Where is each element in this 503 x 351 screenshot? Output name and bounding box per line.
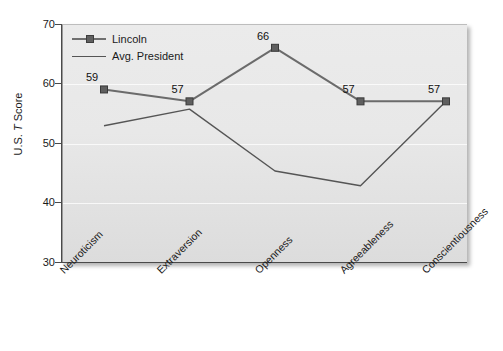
legend-line-icon — [72, 56, 106, 57]
y-tick-mark-70 — [55, 24, 61, 25]
y-tick-mark-40 — [55, 202, 61, 203]
y-axis-title-suffix: Score — [12, 93, 24, 125]
legend-square-marker-icon — [86, 35, 94, 43]
y-tick-label-40-wrap: 40 — [16, 197, 55, 208]
legend-item-avg-president: Avg. President — [72, 47, 222, 64]
legend-label-avg-president: Avg. President — [112, 50, 183, 62]
y-tick-label-60: 60 — [23, 78, 55, 89]
y-tick-mark-60 — [55, 83, 61, 84]
data-point-label: 57 — [428, 84, 440, 95]
data-point-label: 57 — [171, 84, 183, 95]
data-point-label: 59 — [86, 72, 98, 83]
y-tick-label-70: 70 — [23, 19, 55, 30]
y-tick-label-30: 30 — [23, 257, 55, 268]
legend-key-avg-president — [72, 50, 106, 62]
gridline-60 — [63, 84, 467, 85]
y-tick-label-40: 40 — [23, 197, 55, 208]
y-tick-mark-50 — [55, 143, 61, 144]
gridline-50 — [63, 144, 467, 145]
y-axis-title-prefix: U.S. — [12, 131, 24, 155]
legend-key-lincoln — [72, 33, 106, 45]
gridline-40 — [63, 203, 467, 204]
data-point-label: 57 — [342, 84, 354, 95]
legend-item-lincoln: Lincoln — [72, 30, 222, 47]
data-point-label: 66 — [257, 31, 269, 42]
y-axis-title: U.S. T Score — [12, 69, 24, 179]
y-axis-title-italic: T — [12, 124, 24, 131]
chart-legend: Lincoln Avg. President — [72, 30, 222, 64]
y-tick-label-50: 50 — [23, 138, 55, 149]
y-axis-line — [61, 24, 62, 263]
chart-container: 70 60 50 40 30 U.S. T Score Neuroticism … — [0, 0, 503, 351]
y-tick-label-70-wrap: 70 — [16, 19, 55, 30]
legend-label-lincoln: Lincoln — [112, 33, 147, 45]
y-tick-label-30-wrap: 30 — [16, 257, 55, 268]
